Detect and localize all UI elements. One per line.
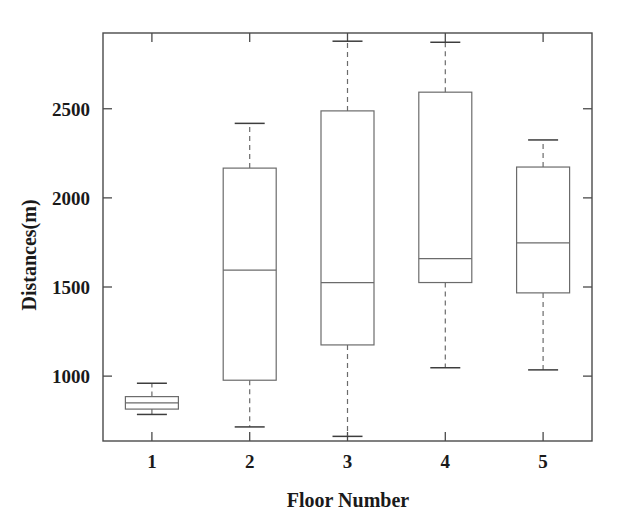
x-tick-label: 3	[343, 451, 353, 472]
plot-frame	[103, 33, 592, 441]
boxplot-chart: 1000150020002500 12345 Distances(m) Floo…	[0, 0, 622, 524]
y-tick-label: 1500	[52, 277, 90, 298]
y-tick-label: 2000	[52, 188, 90, 209]
box-iqr	[517, 167, 570, 293]
box-iqr	[321, 111, 374, 345]
box-plot-item	[223, 123, 276, 427]
x-tick-label: 2	[245, 451, 255, 472]
y-axis-tick-labels: 1000150020002500	[52, 99, 90, 387]
box-plot-item	[517, 140, 570, 370]
y-tick-label: 1000	[52, 366, 90, 387]
plot-border	[103, 33, 592, 441]
y-axis-title: Distances(m)	[18, 199, 41, 310]
box-plot-item	[125, 383, 178, 414]
x-axis-tick-labels: 12345	[147, 451, 548, 472]
box-plot-item	[419, 42, 472, 367]
plot-canvas: 1000150020002500 12345 Distances(m) Floo…	[0, 0, 622, 524]
y-tick-label: 2500	[52, 99, 90, 120]
box-iqr	[223, 168, 276, 380]
x-axis-ticks	[152, 33, 543, 441]
x-axis-title: Floor Number	[287, 489, 410, 511]
x-tick-label: 1	[147, 451, 157, 472]
box-plot-item	[321, 41, 374, 436]
box-series	[125, 41, 569, 436]
x-tick-label: 5	[538, 451, 548, 472]
box-iqr	[419, 92, 472, 282]
x-tick-label: 4	[441, 451, 451, 472]
